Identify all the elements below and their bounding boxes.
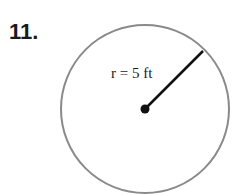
center-point: [141, 105, 150, 114]
radius-line: [145, 51, 203, 109]
radius-label: r = 5 ft: [111, 65, 153, 81]
circle-figure: r = 5 ft: [0, 0, 240, 195]
